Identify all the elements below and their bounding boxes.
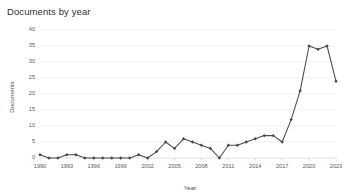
data-point-marker — [110, 156, 113, 159]
series-line-documents — [40, 46, 336, 158]
data-point-marker — [334, 80, 337, 83]
y-tick-label: 40 — [29, 26, 35, 32]
data-point-marker — [119, 156, 122, 159]
data-point-marker — [254, 137, 257, 140]
data-point-marker — [191, 140, 194, 143]
x-tick-label: 1990 — [34, 163, 46, 169]
y-axis-title: Documents — [8, 81, 15, 112]
data-point-marker — [307, 44, 310, 47]
x-tick-label: 2017 — [276, 163, 288, 169]
x-tick-label: 2005 — [168, 163, 180, 169]
y-tick-label: 35 — [29, 42, 35, 48]
x-axis-title: Year — [184, 184, 197, 191]
chart-plot-area: 0510152025303540 19901993199619992002200… — [0, 0, 344, 195]
x-tick-label: 2008 — [195, 163, 207, 169]
x-tick-label: 1996 — [88, 163, 100, 169]
documents-by-year-chart: Documents by year 0510152025303540 19901… — [0, 0, 344, 195]
y-tick-label: 10 — [29, 122, 35, 128]
x-tick-label: 2014 — [249, 163, 261, 169]
x-tick-label: 2023 — [330, 163, 342, 169]
data-point-marker — [200, 144, 203, 147]
y-tick-label: 0 — [32, 154, 35, 160]
data-point-marker — [245, 140, 248, 143]
data-point-marker — [289, 118, 292, 121]
data-point-marker — [316, 48, 319, 51]
data-point-marker — [47, 156, 50, 159]
data-point-marker — [128, 156, 131, 159]
data-point-marker — [137, 153, 140, 156]
y-axis-tick-labels: 0510152025303540 — [29, 26, 35, 160]
x-tick-label: 1993 — [61, 163, 73, 169]
x-tick-label: 1999 — [115, 163, 127, 169]
data-point-marker — [92, 156, 95, 159]
y-tick-label: 25 — [29, 74, 35, 80]
data-point-marker — [298, 89, 301, 92]
y-tick-label: 20 — [29, 90, 35, 96]
data-series-documents — [38, 44, 337, 159]
data-point-marker — [101, 156, 104, 159]
y-tick-label: 5 — [32, 138, 35, 144]
x-tick-label: 2002 — [141, 163, 153, 169]
x-tick-label: 2011 — [222, 163, 234, 169]
data-point-marker — [65, 153, 68, 156]
y-tick-label: 30 — [29, 58, 35, 64]
data-point-marker — [263, 134, 266, 137]
data-point-marker — [325, 44, 328, 47]
data-point-marker — [38, 153, 41, 156]
y-tick-label: 15 — [29, 106, 35, 112]
data-point-marker — [83, 156, 86, 159]
x-axis-tick-labels: 1990199319961999200220052008201120142017… — [34, 163, 342, 169]
x-tick-label: 2020 — [303, 163, 315, 169]
data-point-marker — [56, 156, 59, 159]
data-point-marker — [74, 153, 77, 156]
data-point-marker — [236, 144, 239, 147]
